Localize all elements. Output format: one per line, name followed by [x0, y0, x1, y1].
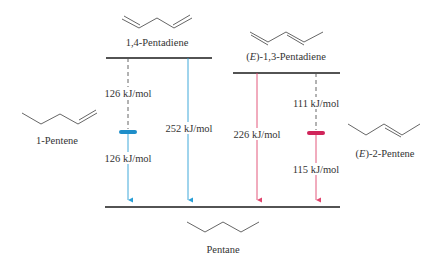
pentene-1-label: 1-Pentene [36, 135, 78, 146]
pentadiene-13-label: (E)-1,3-Pentadiene [246, 51, 326, 63]
pentene-1-structure [22, 110, 97, 124]
pentene-1-level-bar [119, 130, 137, 134]
pentadiene-14-label: 1,4-Pentadiene [126, 37, 189, 48]
pentene-2-level-bar [307, 131, 325, 135]
pentadiene-13-structure [250, 32, 323, 45]
pentene-2-structure [348, 124, 420, 137]
energy-total-14: 252 kJ/mol [166, 123, 213, 134]
pentane-structure [187, 222, 259, 232]
pentadiene-14-structure [122, 15, 192, 28]
energy-step2-13: 115 kJ/mol [293, 164, 340, 175]
pentane-label: Pentane [206, 244, 240, 255]
energy-step2-14: 126 kJ/mol [105, 153, 152, 164]
pentene-2-label: (E)-2-Pentene [356, 148, 415, 160]
energy-step1-13: 111 kJ/mol [293, 98, 339, 109]
hydrogenation-energy-diagram: 1,4-Pentadiene (E)-1,3-Pentadiene 1-Pent… [0, 0, 443, 258]
energy-total-13: 226 kJ/mol [234, 129, 281, 140]
energy-step1-14: 126 kJ/mol [105, 88, 152, 99]
